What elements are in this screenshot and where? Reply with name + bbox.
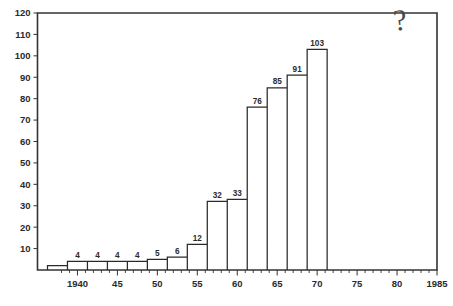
y-tick-label: 80 (20, 93, 31, 104)
bar-value-label: 4 (75, 251, 80, 260)
bar-series (47, 49, 327, 270)
x-axis-major-ticks (77, 270, 437, 276)
y-tick-label: 70 (20, 114, 31, 125)
x-tick-label: 70 (312, 278, 323, 289)
x-tick-label: 60 (232, 278, 243, 289)
y-tick-label: 50 (20, 157, 31, 168)
bar-value-label: 103 (310, 39, 324, 48)
bar-value-label: 4 (135, 251, 140, 260)
y-tick-label: 100 (15, 50, 31, 61)
y-tick-label: 30 (20, 200, 31, 211)
y-tick-label: 120 (15, 7, 31, 18)
y-tick-label: 110 (15, 29, 30, 40)
bar-value-label: 33 (233, 189, 243, 198)
y-tick-label: 40 (20, 179, 31, 190)
bar-value-label: 6 (175, 247, 180, 256)
x-axis-labels: 194045505560657075801985 (67, 278, 448, 289)
bar-outline (47, 49, 327, 270)
y-tick-label: 10 (20, 243, 31, 254)
x-tick-label: 1940 (67, 278, 88, 289)
chart-canvas: 102030405060708090100110120 194045505560… (0, 0, 453, 306)
histogram-chart: 102030405060708090100110120 194045505560… (0, 0, 453, 306)
bar-value-label: 91 (293, 65, 303, 74)
question-mark-annotation: ? (392, 3, 409, 37)
x-tick-label: 80 (392, 278, 403, 289)
y-tick-label: 90 (20, 72, 31, 83)
x-tick-label: 50 (152, 278, 163, 289)
x-tick-label: 45 (112, 278, 123, 289)
x-tick-label: 75 (352, 278, 363, 289)
bar-value-label: 5 (155, 249, 160, 258)
bar-value-label: 4 (115, 251, 120, 260)
bar-value-label: 76 (253, 97, 263, 106)
bar-value-label: 32 (213, 191, 223, 200)
x-tick-label: 65 (272, 278, 283, 289)
x-tick-label: 1985 (426, 278, 448, 289)
y-axis-labels: 102030405060708090100110120 (15, 7, 31, 254)
plot-frame (38, 13, 438, 270)
x-tick-label: 55 (192, 278, 203, 289)
bar-value-label: 12 (193, 234, 203, 243)
y-tick-label: 20 (20, 222, 31, 233)
frame-border (38, 13, 438, 270)
y-tick-label: 60 (20, 136, 31, 147)
bar-value-label: 4 (95, 251, 100, 260)
chart-annotations: ? (392, 3, 409, 37)
bar-value-label: 85 (273, 77, 283, 86)
